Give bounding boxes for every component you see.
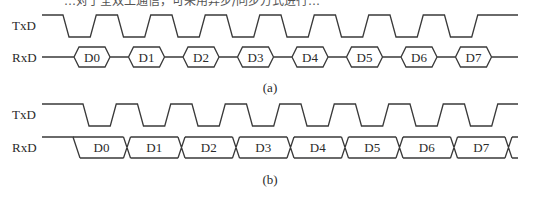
data-bit-label: D0 — [84, 50, 100, 65]
data-bit-label: D3 — [255, 140, 271, 155]
txd-waveform-a — [42, 15, 518, 37]
txd-label-a: TxD — [12, 18, 36, 33]
data-bit-label: D7 — [473, 140, 489, 155]
data-bit-label: D1 — [146, 140, 162, 155]
data-bit-label: D1 — [139, 50, 155, 65]
data-bit-label: D6 — [419, 140, 435, 155]
data-bit-label: D4 — [302, 50, 318, 65]
data-bit-label: D5 — [364, 140, 380, 155]
data-bit-label: D2 — [201, 140, 217, 155]
rxd-waveform-b: D0D1D2D3D4D5D6D7 — [42, 137, 518, 158]
data-bit-label: D0 — [94, 140, 110, 155]
rxd-label-b: RxD — [12, 140, 37, 155]
header-text: …对于全双工通信，可采用异步/同步方式进行… — [64, 0, 320, 8]
panel-a: TxD RxD D0D1D2D3D4D5D6D7 (a) — [12, 15, 518, 95]
data-bit-label: D3 — [248, 50, 264, 65]
rxd-bus-line-a — [42, 47, 518, 67]
data-bit-label: D5 — [357, 50, 373, 65]
rxd-waveform-a: D0D1D2D3D4D5D6D7 — [42, 47, 518, 67]
txd-label-b: TxD — [12, 107, 36, 122]
data-bit-label: D7 — [466, 50, 482, 65]
caption-a: (a) — [263, 80, 277, 95]
txd-waveform-b — [42, 104, 518, 126]
rxd-start-edge-b — [42, 137, 80, 158]
cropped-header-text: …对于全双工通信，可采用异步/同步方式进行… — [64, 0, 320, 8]
data-bit-label: D4 — [310, 140, 326, 155]
data-bit-label: D2 — [193, 50, 209, 65]
caption-b: (b) — [262, 172, 277, 187]
data-bit-label: D6 — [411, 50, 427, 65]
panel-b: TxD RxD D0D1D2D3D4D5D6D7 (b) — [12, 104, 518, 187]
timing-diagram: …对于全双工通信，可采用异步/同步方式进行… TxD RxD D0D1D2D3D… — [0, 0, 543, 198]
rxd-label-a: RxD — [12, 50, 37, 65]
rxd-bus-cells-b — [73, 137, 518, 158]
